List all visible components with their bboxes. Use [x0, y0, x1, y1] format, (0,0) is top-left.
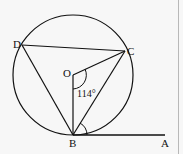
label-angle: 114°: [77, 88, 96, 99]
geometry-diagram: D C O 114° B A: [0, 0, 183, 154]
label-c: C: [127, 45, 134, 57]
segment-db: [22, 45, 73, 135]
label-b: B: [69, 137, 76, 149]
label-d: D: [13, 38, 21, 50]
label-a: A: [161, 137, 169, 149]
segment-dc: [22, 45, 125, 51]
label-o: O: [63, 67, 71, 79]
